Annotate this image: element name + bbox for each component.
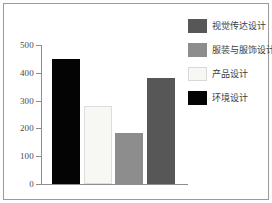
y-tick-mark <box>36 73 41 74</box>
y-tick-label: 500 <box>2 41 34 50</box>
bar-视觉传达设计[interactable] <box>147 78 175 184</box>
legend-swatch-icon <box>188 19 207 33</box>
y-tick-mark <box>36 101 41 102</box>
chart-legend: 视觉传达设计服装与服饰设计产品设计环境设计 <box>188 14 270 110</box>
y-tick-mark <box>36 184 41 185</box>
y-tick-label-wrap: 0 <box>0 180 34 189</box>
legend-swatch-icon <box>188 91 207 105</box>
y-tick-label: 200 <box>2 124 34 133</box>
y-tick-label-wrap: 500 <box>0 41 34 50</box>
legend-item[interactable]: 服装与服饰设计 <box>188 38 270 62</box>
y-tick-label-wrap: 400 <box>0 69 34 78</box>
legend-item-label: 服装与服饰设计 <box>212 45 272 55</box>
legend-swatch-icon <box>188 43 207 57</box>
y-axis-line <box>41 45 42 184</box>
legend-item-label: 视觉传达设计 <box>212 21 266 31</box>
y-tick-label: 300 <box>2 97 34 106</box>
y-tick-mark <box>36 156 41 157</box>
legend-item-label: 产品设计 <box>212 69 248 79</box>
y-tick-mark <box>36 128 41 129</box>
y-tick-label: 0 <box>2 180 34 189</box>
bar-产品设计[interactable] <box>84 106 112 184</box>
legend-item[interactable]: 产品设计 <box>188 62 270 86</box>
x-axis-line <box>41 184 188 185</box>
bar-服装与服饰设计[interactable] <box>115 133 143 184</box>
legend-item-label: 环境设计 <box>212 93 248 103</box>
y-tick-label-wrap: 100 <box>0 152 34 161</box>
y-tick-mark <box>36 45 41 46</box>
bar-环境设计[interactable] <box>52 59 80 184</box>
y-tick-label: 100 <box>2 152 34 161</box>
legend-item[interactable]: 环境设计 <box>188 86 270 110</box>
y-tick-label-wrap: 300 <box>0 97 34 106</box>
y-tick-label: 400 <box>2 69 34 78</box>
y-tick-label-wrap: 200 <box>0 124 34 133</box>
legend-swatch-icon <box>188 67 207 81</box>
legend-item[interactable]: 视觉传达设计 <box>188 14 270 38</box>
chart-figure: 5004003002001000 视觉传达设计服装与服饰设计产品设计环境设计 <box>0 0 272 203</box>
